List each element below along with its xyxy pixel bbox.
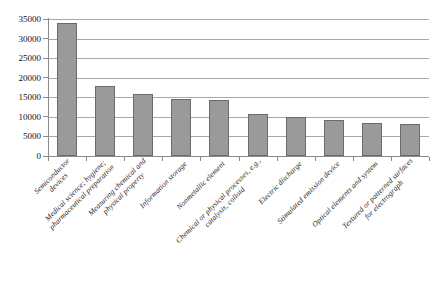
y-tick-label: 10000: [0, 112, 41, 122]
x-axis-label-line: pharmaceutical preparation: [48, 163, 116, 231]
x-tick-mark: [315, 157, 316, 161]
bar: [286, 117, 306, 156]
x-axis-label-line: Information storage: [139, 160, 190, 211]
x-axis-label: Measuring chemical andphysical property: [87, 157, 154, 224]
bar: [248, 114, 268, 156]
bar: [209, 100, 229, 156]
x-tick-mark: [86, 157, 87, 161]
bar: [133, 94, 153, 156]
plot-area: [48, 19, 429, 156]
x-axis-label-line: physical property: [93, 163, 154, 224]
x-tick-mark: [353, 157, 354, 161]
bar: [362, 123, 382, 156]
y-tick-label: 20000: [0, 73, 41, 83]
bar-chart: 35000300002500020000150001000050000 Semi…: [0, 0, 446, 306]
y-tick-label: 5000: [0, 131, 41, 141]
x-axis-label: Semiconductordevices: [33, 157, 78, 202]
x-tick-mark: [239, 157, 240, 161]
bar: [171, 99, 191, 156]
x-tick-mark: [429, 157, 430, 161]
y-tick-label: 25000: [0, 53, 41, 63]
bar: [324, 120, 344, 156]
bar: [95, 86, 115, 156]
x-axis-label: Nonmetallic element: [176, 160, 228, 212]
x-axis-label: Chemical or physical processes, e.g.,cat…: [174, 157, 269, 252]
x-axis-label-line: Electric discharge: [257, 160, 304, 207]
y-tick-label: 35000: [0, 14, 41, 24]
x-tick-mark: [124, 157, 125, 161]
x-tick-mark: [48, 157, 49, 161]
x-axis-label: Information storage: [139, 160, 190, 211]
y-tick-label: 15000: [0, 92, 41, 102]
bar: [400, 124, 420, 156]
x-axis-label-line: Semiconductor: [33, 157, 72, 196]
x-axis-label-line: Stimulated emission device: [276, 160, 342, 226]
x-axis-label-line: Optical elements and system: [311, 160, 380, 229]
x-axis-label-line: Medical science; hygiene;: [42, 157, 110, 225]
y-tick-label: 30000: [0, 34, 41, 44]
bar: [57, 23, 77, 156]
x-axis-label: Textured or patterned surfacesfor electr…: [341, 157, 421, 237]
x-axis-label: Electric discharge: [257, 160, 304, 207]
x-axis-label-line: Nonmetallic element: [176, 160, 228, 212]
x-tick-mark: [162, 157, 163, 161]
x-tick-mark: [391, 157, 392, 161]
x-axis-label: Medical science; hygiene;pharmaceutical …: [42, 157, 117, 232]
x-axis-label: Stimulated emission device: [276, 160, 342, 226]
x-axis-label: Optical elements and system: [311, 160, 380, 229]
y-tick-label: 0: [0, 151, 41, 161]
x-axis-label-line: Measuring chemical and: [87, 157, 148, 218]
x-axis-label-line: devices: [39, 163, 78, 202]
x-axis-label-line: catalysis, colloid: [180, 163, 268, 251]
x-tick-mark: [200, 157, 201, 161]
x-tick-mark: [277, 157, 278, 161]
x-axis-label-line: for electrograph: [347, 163, 421, 237]
x-axis-label-line: Chemical or physical processes, e.g.,: [174, 157, 262, 245]
x-axis-label-line: Textured or patterned surfaces: [341, 157, 415, 231]
